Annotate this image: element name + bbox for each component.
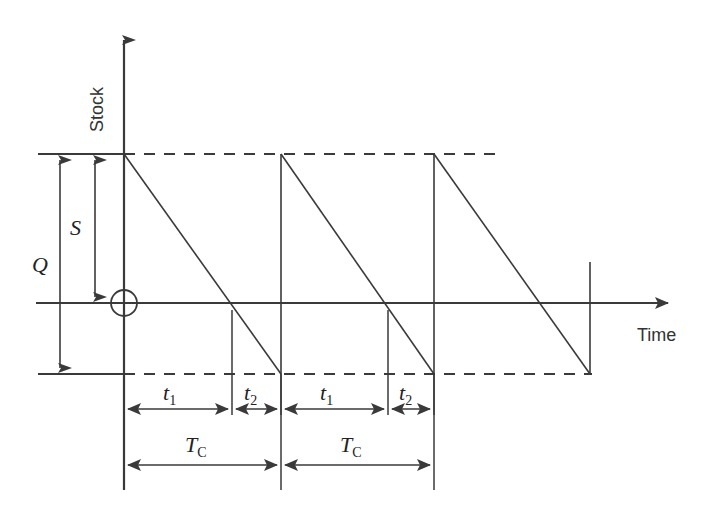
t1-label-cycle-2: t1: [320, 380, 333, 408]
tc-label-cycle-1: TC: [185, 432, 207, 460]
x-axis-label: Time: [637, 325, 676, 345]
t2-label-cycle-1: t2: [244, 380, 257, 408]
stock-decline-cycle-2: [281, 154, 434, 374]
stock-profile-group: [124, 154, 590, 374]
stock-decline-cycle-3: [434, 154, 590, 374]
inventory-diagram: Q S t1 t2 t1 t2 TC: [0, 0, 717, 519]
axis-labels-group: Stock Time: [87, 86, 676, 345]
level-lines-group: [38, 154, 592, 374]
inventory-stock-chart: Q S t1 t2 t1 t2 TC: [0, 0, 717, 519]
t-dimensions-group: t1 t2 t1 t2: [128, 380, 430, 409]
t2-label-cycle-2: t2: [399, 380, 412, 408]
q-label: Q: [32, 252, 48, 277]
y-axis-label: Stock: [87, 86, 107, 132]
s-dimension-group: S: [70, 160, 95, 297]
q-dimension-group: Q: [32, 160, 60, 368]
stock-decline-cycle-1: [124, 154, 281, 374]
s-label: S: [70, 215, 81, 240]
axes-group: [36, 40, 668, 490]
t1-label-cycle-1: t1: [163, 380, 176, 408]
tc-label-cycle-2: TC: [340, 432, 362, 460]
tc-dimensions-group: TC TC: [128, 432, 430, 465]
